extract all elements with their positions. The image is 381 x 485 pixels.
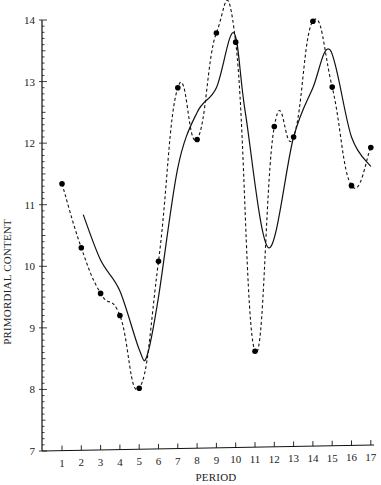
data-point-marker	[194, 137, 200, 143]
y-tick-label: 11	[24, 199, 35, 211]
y-tick-label: 12	[24, 137, 35, 149]
data-point-marker	[98, 291, 104, 297]
data-point-marker	[175, 85, 181, 91]
data-point-marker	[136, 385, 142, 391]
x-tick-label: 17	[365, 451, 377, 463]
y-axis-title: PRIMORDIAL CONTENT	[1, 219, 13, 345]
y-tick-label: 9	[30, 322, 36, 334]
data-point-marker	[59, 181, 65, 187]
data-point-marker	[310, 18, 316, 24]
observed-series-line	[62, 0, 371, 390]
data-point-marker	[214, 30, 220, 36]
x-tick-label: 7	[175, 455, 181, 467]
x-tick-label: 13	[288, 452, 300, 464]
data-point-marker	[349, 183, 355, 189]
data-point-marker	[291, 134, 297, 140]
data-point-marker	[117, 313, 123, 319]
x-tick-label: 11	[250, 453, 261, 465]
x-tick-label: 8	[194, 454, 200, 466]
x-tick-label: 14	[307, 452, 319, 464]
data-point-marker	[272, 124, 278, 130]
x-tick-label: 16	[346, 451, 358, 463]
y-axis: 7891011121314	[24, 14, 47, 457]
x-tick-label: 15	[327, 452, 339, 464]
x-axis: 1234567891011121314151617	[42, 440, 377, 469]
data-point-marker	[79, 245, 85, 251]
y-tick-label: 14	[24, 14, 36, 26]
x-tick-label: 6	[156, 455, 162, 467]
x-tick-label: 12	[269, 453, 280, 465]
smoothed-series-line	[83, 33, 371, 361]
data-point-marker	[233, 39, 239, 45]
data-point-marker	[156, 259, 162, 265]
x-tick-label: 5	[136, 455, 142, 467]
y-tick-label: 7	[30, 445, 36, 457]
y-tick-label: 8	[30, 383, 36, 395]
x-axis-title: PERIOD	[196, 471, 237, 483]
data-point-marker	[368, 145, 374, 151]
x-tick-label: 9	[214, 454, 220, 466]
data-point-marker	[329, 84, 335, 90]
x-tick-label: 4	[117, 456, 123, 468]
y-tick-label: 10	[24, 260, 36, 272]
x-tick-label: 1	[59, 457, 65, 469]
data-point-marker	[252, 348, 258, 354]
y-tick-label: 13	[24, 76, 36, 88]
x-tick-label: 10	[230, 453, 242, 465]
observed-series-markers	[59, 18, 373, 391]
x-tick-label: 2	[79, 456, 85, 468]
x-tick-label: 3	[98, 456, 104, 468]
line-chart: 7891011121314 1234567891011121314151617 …	[0, 0, 381, 485]
